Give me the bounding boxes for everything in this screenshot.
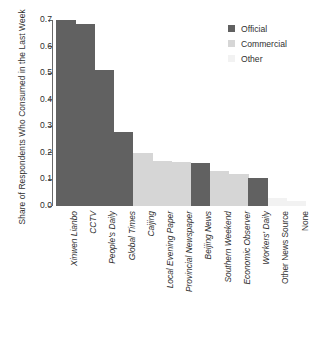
y-tick-label: 0.1 [8,173,52,183]
bar-provincial-newspaper [171,162,191,206]
legend-label: Commercial [241,39,287,49]
x-tick-label: Provincial Newspaper [184,211,194,292]
x-tick-label: Local Evening Paper [165,211,175,288]
x-tick-label: Southern Weekend [223,211,233,283]
y-axis-line [52,20,53,206]
legend-swatch-icon [228,25,235,32]
legend-swatch-icon [228,40,235,47]
x-tick-label: Beijing News [203,211,213,259]
y-tick-label: 0.5 [8,67,52,77]
bar-southern-weekend [210,171,230,206]
y-tick-label: 0.2 [8,147,52,157]
chart-container: Share of Respondents Who Consumed in the… [0,0,315,343]
legend-swatch-icon [228,55,235,62]
legend-label: Official [241,24,267,34]
bar-none [287,201,307,206]
y-tick-label: 0.3 [8,120,52,130]
legend-item: Commercial [228,37,287,50]
x-tick-label: Global Times [127,211,137,260]
y-tick-label: 0.4 [8,94,52,104]
x-tick-label: Other News Source [280,211,290,284]
legend-item: Other [228,52,287,65]
bar-economic-observer [229,174,249,206]
y-tick-label: 0.7 [8,14,52,24]
bar-cctv [75,24,95,206]
x-tick-label: Workers' Daily [261,211,271,265]
legend-label: Other [241,54,263,64]
x-tick-label: None [300,211,310,231]
bar-local-evening-paper [152,161,172,206]
bar-other-news-source [268,198,288,206]
bar-global-times [114,132,134,206]
bar-caijing [133,153,153,206]
bar-beijing-news [191,163,211,206]
x-tick-label: Caijing [146,211,156,237]
bar-workers-daily [248,178,268,206]
x-tick-label: CCTV [88,211,98,234]
x-tick-label: Economic Observer [242,211,252,285]
x-tick-label: People's Daily [107,211,117,264]
y-tick-label: 0.0 [8,200,52,210]
x-tick-label: Xinwen Lianbo [69,211,79,266]
bar-xinwen-lianbo [56,20,76,206]
y-axis-ticks: 0.00.10.20.30.40.50.60.7 [0,0,52,206]
bar-people-s-daily [94,70,114,206]
y-tick-label: 0.6 [8,41,52,51]
legend: OfficialCommercialOther [228,22,287,67]
legend-item: Official [228,22,287,35]
